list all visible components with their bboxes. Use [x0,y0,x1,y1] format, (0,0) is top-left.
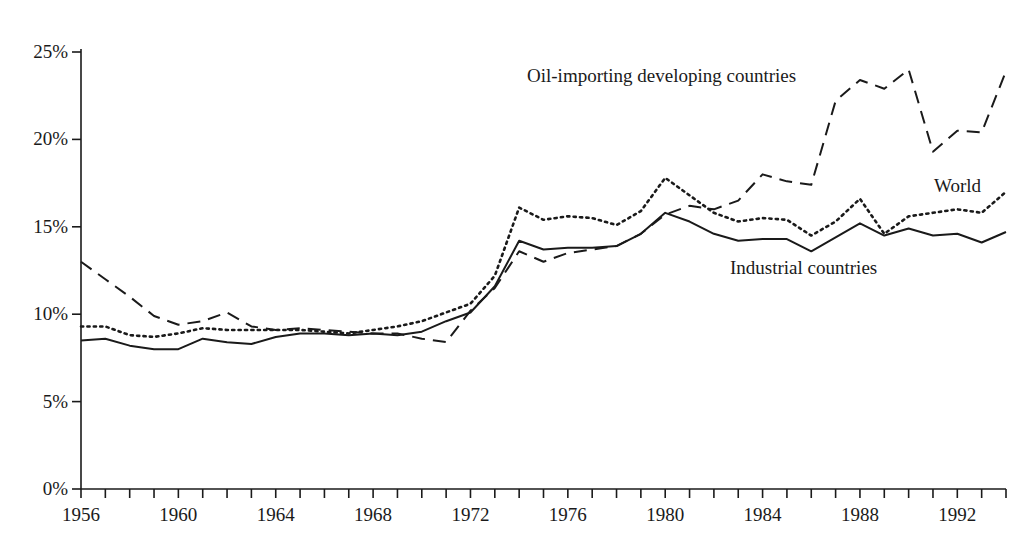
y-axis-ticks [72,52,81,489]
x-axis-tick-label: 1956 [41,505,121,524]
y-axis-tick-label: 25% [0,42,68,61]
y-axis-tick-label: 5% [0,392,68,411]
series-label-world: World [934,176,981,195]
x-axis-tick-label: 1960 [138,505,218,524]
x-axis-tick-label: 1992 [917,505,997,524]
x-axis-tick-label: 1984 [723,505,803,524]
y-axis-tick-label: 20% [0,129,68,148]
y-axis-tick-label: 0% [0,479,68,498]
series-label-industrial-countries: Industrial countries [730,258,877,277]
series-line-oil-importing-developing-countries [81,69,1006,342]
y-axis-tick-label: 10% [0,304,68,323]
x-axis-tick-label: 1968 [333,505,413,524]
y-axis-tick-label: 15% [0,217,68,236]
x-axis-tick-label: 1988 [820,505,900,524]
x-axis-tick-label: 1972 [430,505,510,524]
x-axis-tick-label: 1980 [625,505,705,524]
x-axis-tick-label: 1976 [528,505,608,524]
series-label-oil-importing-developing-countries: Oil-importing developing countries [527,66,796,85]
x-axis-ticks [81,489,1006,498]
chart-container: 0%5%10%15%20%25% 19561960196419681972197… [0,0,1029,547]
x-axis-tick-label: 1964 [236,505,316,524]
series-lines [81,69,1006,349]
